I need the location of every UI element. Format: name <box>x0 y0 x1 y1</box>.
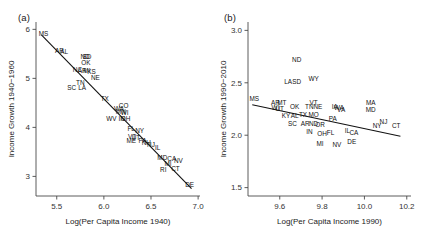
figure-container: (a) 34565.56.06.57.0Log(Per Capita Incom… <box>0 0 423 240</box>
data-point-label: CT <box>392 122 401 129</box>
data-point-label: FL <box>127 125 135 132</box>
data-point-label: ND <box>292 56 302 63</box>
data-point-label: NV <box>174 157 184 164</box>
panel-a: (a) 34565.56.06.57.0Log(Per Capita Incom… <box>0 0 212 240</box>
y-tick-label: 5 <box>26 74 31 83</box>
x-tick-label: 9.6 <box>274 202 286 211</box>
data-point-label: MO <box>308 111 318 118</box>
data-point-label: SD <box>292 78 301 85</box>
panel-a-plot: 34565.56.06.57.0Log(Per Capita Income 19… <box>0 0 212 240</box>
y-tick-label: 6 <box>26 25 31 34</box>
data-point-label: IL <box>155 144 161 151</box>
data-point-label: NV <box>332 141 342 148</box>
data-point-label: MA <box>366 99 376 106</box>
data-point-label: OK <box>81 59 91 66</box>
data-point-label: SC <box>288 120 297 127</box>
data-point-label: MS <box>250 95 260 102</box>
data-point-label: WY <box>308 75 319 82</box>
x-axis-title: Log(Per Capita Income 1940) <box>66 217 171 226</box>
data-point-label: NE <box>91 74 100 81</box>
x-tick-label: 9.8 <box>317 202 329 211</box>
y-axis-title: Income Growth 1940−1960 <box>7 60 16 157</box>
x-tick-label: 6.5 <box>145 202 157 211</box>
data-point-label: ME <box>126 137 136 144</box>
data-point-label: VA <box>337 106 346 113</box>
panel-b: (b) 1.52.02.53.09.69.810.010.2Log(Per Ca… <box>212 0 423 240</box>
data-point-label: DE <box>185 181 194 188</box>
data-point-label: SC <box>67 84 76 91</box>
y-axis-title: Income Growth 1990−2010 <box>219 60 228 157</box>
data-point-label: FL <box>327 129 335 136</box>
data-point-label: PA <box>329 115 338 122</box>
data-point-label: UT <box>275 105 284 112</box>
data-point-label: OH <box>121 115 131 122</box>
y-tick-label: 3 <box>26 172 31 181</box>
data-point-label: OH <box>317 130 327 137</box>
data-point-label: RI <box>160 166 167 173</box>
data-point-label: OR <box>315 121 325 128</box>
data-point-label: MD <box>366 106 376 113</box>
panel-b-plot: 1.52.02.53.09.69.810.010.2Log(Per Capita… <box>212 0 423 240</box>
data-point-label: NJ <box>147 141 155 148</box>
data-point-label: WV <box>106 115 117 122</box>
data-point-label: MS <box>39 30 49 37</box>
y-tick-label: 4 <box>26 123 31 132</box>
data-point-label: NE <box>313 103 322 110</box>
x-tick-label: 6.0 <box>98 202 110 211</box>
data-point-label: DE <box>347 138 356 145</box>
data-point-label: CA <box>349 129 359 136</box>
data-point-label: AL <box>291 112 299 119</box>
data-point-label: OK <box>290 103 300 110</box>
y-tick-label: 2.0 <box>231 131 243 140</box>
data-point-label: TX <box>101 95 110 102</box>
data-point-label: NJ <box>380 118 388 125</box>
x-tick-label: 10.0 <box>357 202 373 211</box>
x-tick-label: 7.0 <box>193 202 205 211</box>
y-tick-label: 3.0 <box>231 26 243 35</box>
data-point-label: MI <box>316 140 323 147</box>
data-point-label: AL <box>60 48 68 55</box>
x-tick-label: 5.5 <box>51 202 63 211</box>
x-axis-title: Log(Per Capita Income 1990) <box>277 217 382 226</box>
data-point-label: CT <box>171 165 180 172</box>
y-tick-label: 2.5 <box>231 79 243 88</box>
x-tick-label: 10.2 <box>399 202 415 211</box>
data-point-label: IN <box>306 128 313 135</box>
y-tick-label: 1.5 <box>231 183 243 192</box>
data-point-label: TX <box>299 111 308 118</box>
data-point-label: LA <box>78 84 87 91</box>
